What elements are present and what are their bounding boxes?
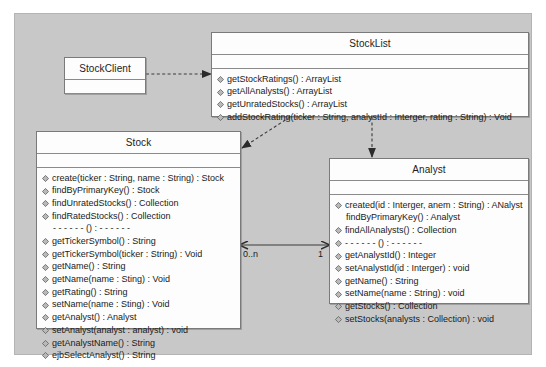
public-method-icon: [42, 340, 49, 347]
operation-label: getAnalyst() : Analyst: [52, 312, 137, 324]
public-method-icon: [42, 314, 49, 321]
operation-row: getAllAnalysts() : ArrayList: [212, 86, 528, 99]
operation-label: - - - - - - () : - - - - - -: [345, 238, 422, 250]
operation-label: create(ticker : String, name : String) :…: [52, 173, 224, 185]
public-method-icon: [42, 251, 49, 258]
public-method-icon: [217, 89, 224, 96]
operation-label: getAnalystId() : Integer: [345, 250, 436, 262]
class-attributes-stock-list: [212, 55, 528, 69]
operation-row: findByPrimaryKey() : Analyst: [330, 212, 528, 225]
public-method-icon: [335, 291, 342, 298]
class-title-stock: Stock: [37, 132, 240, 154]
class-title-analyst: Analyst: [330, 159, 528, 181]
public-method-icon: [335, 278, 342, 285]
public-method-icon: [335, 316, 342, 323]
class-box-analyst[interactable]: Analyst created(id : Interger, anem : St…: [329, 158, 529, 304]
public-method-icon: [42, 302, 49, 309]
operation-label: getStocks() : Collection: [345, 301, 438, 313]
operation-label: getAnalystName() : String: [52, 338, 155, 350]
operation-row: getStocks() : Collection: [330, 301, 528, 314]
operation-row: setName(name : String) : void: [330, 288, 528, 301]
class-operations-stock: create(ticker : String, name : String) :…: [37, 168, 240, 366]
class-operations-analyst: created(id : Interger, anem : String) : …: [330, 195, 528, 330]
operation-row: addStockRating(ticker : String, analystI…: [212, 111, 528, 124]
operation-separator-row: - - - - - - () : - - - - - -: [330, 237, 528, 250]
uml-diagram-canvas: StockClient StockList getStockRatings() …: [0, 0, 546, 367]
class-box-stock[interactable]: Stock create(ticker : String, name : Str…: [36, 131, 241, 329]
operation-row: create(ticker : String, name : String) :…: [37, 172, 240, 185]
class-box-stock-client[interactable]: StockClient: [64, 57, 146, 94]
class-operations-stock-list: getStockRatings() : ArrayList getAllAnal…: [212, 69, 528, 128]
class-title-stock-list: StockList: [212, 33, 528, 55]
operation-row: created(id : Interger, anem : String) : …: [330, 199, 528, 212]
operation-label: ejbSelectAnalyst() : String: [52, 350, 156, 362]
operation-row: findByPrimaryKey() : Stock: [37, 185, 240, 198]
operation-label: getName() : String: [345, 276, 419, 288]
operation-label: - - - - - - () : - - - - - -: [53, 223, 130, 235]
public-method-icon: [335, 227, 342, 234]
operation-label: getTickerSymbol() : String: [52, 236, 156, 248]
operation-label: findUnratedStocks() : Collection: [52, 198, 179, 210]
operation-row: ejbSelectAnalyst() : String: [37, 350, 240, 363]
operation-row: getAnalystName() : String: [37, 337, 240, 350]
operation-row: getAnalyst() : Analyst: [37, 312, 240, 325]
public-method-icon: [217, 101, 224, 108]
public-method-icon: [42, 327, 49, 334]
operation-row: findUnratedStocks() : Collection: [37, 197, 240, 210]
operation-row: getName() : String: [37, 261, 240, 274]
public-method-icon: [335, 202, 342, 209]
operation-label: findByPrimaryKey() : Stock: [52, 185, 160, 197]
operation-label: created(id : Interger, anem : String) : …: [345, 200, 523, 212]
operation-row: getName(name : Sting) : Void: [37, 274, 240, 287]
operation-separator-row: - - - - - - () : - - - - - -: [37, 223, 240, 236]
operation-row: setName(name : Sting) : Void: [37, 299, 240, 312]
class-title-stock-client: StockClient: [65, 58, 145, 80]
public-method-icon: [42, 175, 49, 182]
operation-label: findAllAnalysts() : Collection: [345, 225, 457, 237]
operation-label: getName(name : Sting) : Void: [52, 274, 170, 286]
operation-label: getTickerSymbol(ticker : String) : Void: [52, 249, 202, 261]
operation-row: setStocks(analysts : Collection) : void: [330, 313, 528, 326]
public-method-icon: [42, 264, 49, 271]
public-method-icon: [42, 200, 49, 207]
operation-row: getStockRatings() : ArrayList: [212, 73, 528, 86]
public-method-icon: [217, 114, 224, 121]
operation-row: getName() : String: [330, 275, 528, 288]
public-method-icon: [42, 213, 49, 220]
operation-row: getAnalystId() : Integer: [330, 250, 528, 263]
public-method-icon: [335, 303, 342, 310]
operation-label: getRating() : String: [52, 287, 128, 299]
operation-label: setName(name : String) : void: [345, 288, 465, 300]
class-box-stock-list[interactable]: StockList getStockRatings() : ArrayList …: [211, 32, 529, 117]
public-method-icon: [42, 276, 49, 283]
operation-row: setAnalystId(id : Interger) : void: [330, 262, 528, 275]
operation-row: setAnalyst(analyst : analyst) : void: [37, 324, 240, 337]
public-method-icon: [42, 238, 49, 245]
operation-label: setName(name : Sting) : Void: [52, 299, 170, 311]
operation-row: findAllAnalysts() : Collection: [330, 224, 528, 237]
multiplicity-target-label: 1: [318, 249, 323, 259]
operation-label: findRatedStocks() : Collection: [52, 211, 171, 223]
public-method-icon: [335, 240, 342, 247]
public-method-icon: [217, 76, 224, 83]
operation-label: findByPrimaryKey() : Analyst: [346, 212, 460, 224]
public-method-icon: [335, 265, 342, 272]
operation-label: setStocks(analysts : Collection) : void: [345, 314, 494, 326]
operation-label: getStockRatings() : ArrayList: [227, 74, 341, 86]
class-attributes-stock: [37, 154, 240, 168]
operation-label: setAnalyst(analyst : analyst) : void: [52, 325, 188, 337]
operation-row: findRatedStocks() : Collection: [37, 210, 240, 223]
public-method-icon: [42, 352, 49, 359]
operation-row: getTickerSymbol(ticker : String) : Void: [37, 248, 240, 261]
operation-label: addStockRating(ticker : String, analystI…: [227, 112, 512, 124]
operation-label: setAnalystId(id : Interger) : void: [345, 263, 470, 275]
public-method-icon: [42, 188, 49, 195]
operation-label: getUnratedStocks() : ArrayList: [227, 99, 347, 111]
class-attributes-analyst: [330, 181, 528, 195]
public-method-icon: [42, 289, 49, 296]
operation-label: getName() : String: [52, 261, 126, 273]
public-method-icon: [335, 253, 342, 260]
class-operations-stock-client: [65, 94, 145, 103]
multiplicity-source-label: 0..n: [243, 249, 258, 259]
operation-row: getUnratedStocks() : ArrayList: [212, 98, 528, 111]
